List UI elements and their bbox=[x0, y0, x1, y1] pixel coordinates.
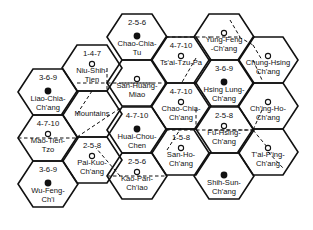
place-name: Ch'iao bbox=[126, 183, 147, 192]
hex-chao-chia-chang: 4-7-10Chao-Chia-Ch'ang bbox=[151, 83, 211, 129]
place-name: Ch'ang bbox=[256, 113, 280, 122]
place-name: Ch'ang bbox=[256, 67, 280, 76]
hex-tai-ping-chang: T'ai-P'ing-Ch'ang bbox=[238, 129, 298, 175]
hex-san-ho-chang: 1-5-8San-Ho-Ch'ang bbox=[151, 129, 211, 175]
market-day-code: 2-5-6 bbox=[128, 157, 146, 166]
hex-tsai-tzu-pa: 4-7-10Ts'ai-Tzu-Pa bbox=[151, 37, 211, 83]
market-day-code: 3-6-9 bbox=[39, 165, 57, 174]
place-name: Ch'i bbox=[42, 195, 55, 204]
dashed-link bbox=[253, 130, 268, 148]
place-name: Ch'ang bbox=[212, 137, 236, 146]
place-name: Ch'ang bbox=[80, 167, 104, 176]
hex-niu-shih-tien: 1-4-7Niu-Shih-Tien bbox=[62, 45, 122, 91]
place-name: Ts'ai-Tzu-Pa bbox=[160, 58, 203, 67]
hex-mountains: Mountains bbox=[62, 91, 122, 137]
market-day-code: 2-5-8 bbox=[83, 141, 101, 150]
hex-liao-chia-chang: 3-6-9Liao-Chia-Ch'ang bbox=[18, 69, 78, 115]
hex-chao-chia-tu: 2-5-6Chao-Chia-Tu bbox=[107, 14, 167, 60]
hex-cells: 3-6-9Liao-Chia-Ch'ang4-7-10Mao-Tien-Tzo3… bbox=[18, 14, 298, 207]
place-name: -Ch'ang bbox=[211, 44, 237, 53]
place-name: Ch'ang bbox=[212, 94, 236, 103]
market-day-code: 4-7-10 bbox=[37, 119, 60, 128]
place-name: Ch'ang bbox=[212, 187, 236, 196]
market-day-code: 4-7-10 bbox=[170, 87, 193, 96]
market-day-code: 1-5-8 bbox=[172, 133, 190, 142]
hex-huai-chou-chen: 4-7-10Huai-Chou-Chen bbox=[107, 107, 167, 153]
market-day-code: 4-7-10 bbox=[126, 111, 149, 120]
place-name: Ch'ang bbox=[169, 159, 193, 168]
hex-ching-ho-chang: Ch'ing-Ho-Ch'ang bbox=[238, 83, 298, 129]
hex-wu-feng-chi: 3-6-9Wu-Feng-Ch'i bbox=[18, 161, 78, 207]
place-name: Chen bbox=[128, 141, 146, 150]
place-name: Ch'ang bbox=[169, 113, 193, 122]
hex-shih-sun-chang: Shih-Sun-Ch'ang bbox=[194, 153, 254, 199]
place-name: Mountains bbox=[74, 109, 109, 118]
place-name: Ch'ang bbox=[36, 103, 60, 112]
place-name: Ch'ang bbox=[256, 159, 280, 168]
place-name: Tzo bbox=[42, 145, 55, 154]
market-day-code: 3-6-9 bbox=[39, 73, 57, 82]
market-day-code: 2-5-8 bbox=[215, 111, 233, 120]
market-day-code: 4-7-10 bbox=[170, 41, 193, 50]
place-name: Tu bbox=[133, 48, 142, 57]
place-name: Miao bbox=[129, 90, 145, 99]
market-day-code: 1-4-7 bbox=[83, 49, 101, 58]
hex-chung-hsing-chang: Chung-HsingCh'ang bbox=[238, 37, 298, 83]
place-name: Tien bbox=[85, 75, 100, 84]
hex-market-diagram: 3-6-9Liao-Chia-Ch'ang4-7-10Mao-Tien-Tzo3… bbox=[0, 0, 313, 230]
market-day-code: 2-5-6 bbox=[128, 18, 146, 27]
market-day-code: 3-6-9 bbox=[215, 64, 233, 73]
